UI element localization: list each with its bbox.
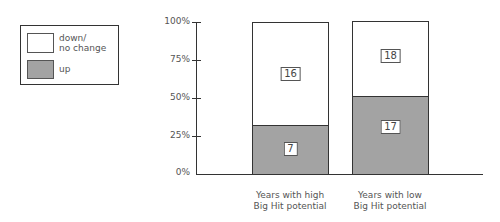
y-tick-25 (192, 136, 201, 137)
legend-label-line: no change (59, 43, 106, 53)
y-tick-75 (192, 60, 201, 61)
segment-down-no-change: 16 (253, 23, 328, 125)
y-tick-label: 25% (170, 130, 190, 140)
legend: down/ no change up (20, 25, 119, 85)
value-label: 16 (280, 67, 301, 81)
y-tick-label: 0% (176, 167, 190, 177)
x-label-high: Years with high Big Hit potential (235, 190, 345, 212)
y-tick-label: 75% (170, 54, 190, 64)
legend-label-line: up (59, 64, 70, 74)
y-tick-100 (192, 22, 201, 23)
value-label: 7 (283, 142, 297, 156)
legend-label-line: down/ (59, 33, 106, 43)
bar-low-potential: 18 17 (352, 21, 429, 175)
value-label: 17 (380, 120, 401, 134)
y-tick-50 (192, 98, 201, 99)
x-axis-baseline (196, 174, 483, 175)
x-label-low: Years with low Big Hit potential (335, 190, 445, 212)
legend-label: up (59, 64, 70, 74)
legend-label: down/ no change (59, 33, 106, 53)
y-tick-label: 50% (170, 92, 190, 102)
legend-swatch-up (27, 60, 54, 79)
segment-down-no-change: 18 (353, 22, 428, 96)
segment-up: 17 (353, 96, 428, 174)
x-label-line: Big Hit potential (235, 201, 345, 212)
x-label-line: Years with low (335, 190, 445, 201)
x-label-line: Years with high (235, 190, 345, 201)
y-tick-label: 100% (164, 16, 190, 26)
bar-high-potential: 16 7 (252, 22, 329, 175)
value-label: 18 (380, 49, 401, 63)
legend-swatch-down-no-change (27, 33, 54, 53)
x-label-line: Big Hit potential (335, 201, 445, 212)
segment-up: 7 (253, 125, 328, 174)
